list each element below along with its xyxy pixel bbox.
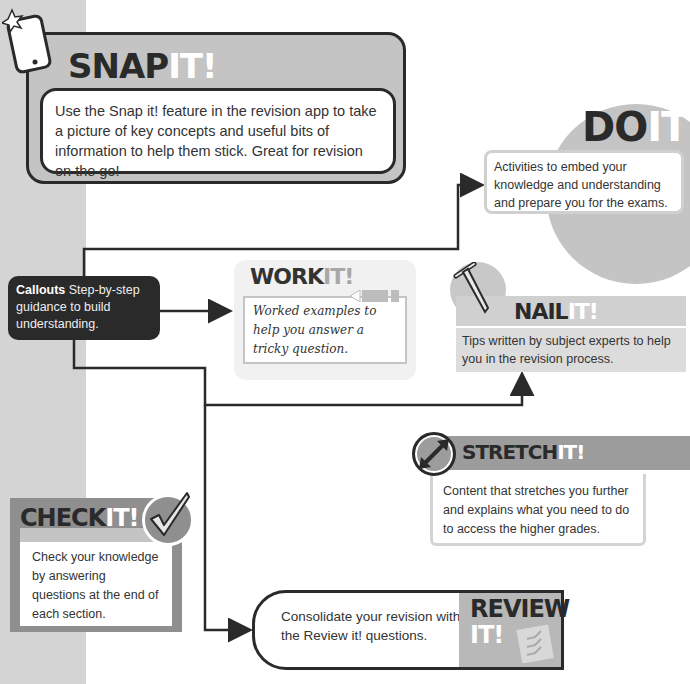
check-it-title-it: IT!	[105, 504, 138, 532]
do-it-title-it: IT!	[647, 104, 690, 150]
nail-it-body: Tips written by subject experts to help …	[456, 328, 686, 372]
check-it-body: Check your knowledge by answering questi…	[20, 542, 172, 626]
review-it-body: Consolidate your revision with the Revie…	[281, 607, 461, 645]
pencil-icon	[350, 290, 402, 302]
nail-it-title-main: NAIL	[514, 299, 568, 324]
check-it-title-main: CHECK	[20, 504, 105, 532]
checkmark-icon	[145, 491, 191, 537]
do-it-title-main: DO	[582, 104, 647, 150]
nail-it-title-it: IT!	[568, 299, 598, 324]
nail-icon	[452, 262, 502, 322]
review-it-title-it: IT!	[470, 622, 569, 648]
check-it-circle	[142, 494, 194, 546]
stretch-it-body: Content that stretches you further and e…	[430, 474, 646, 546]
stretch-it-title-main: STRETCH	[462, 440, 557, 464]
callouts-label: Callouts	[16, 283, 65, 297]
work-it-title-main: WORK	[250, 264, 323, 289]
do-it-body: Activities to embed your knowledge and u…	[484, 150, 684, 214]
snap-it-title-it: IT!	[168, 46, 216, 86]
stretch-it-title: STRETCHIT!	[462, 440, 584, 464]
do-it-title: DOIT!	[582, 104, 690, 150]
work-it-title-it: IT!	[323, 264, 353, 289]
phone-flash-icon	[2, 8, 54, 74]
work-it-body: Worked examples to help you answer a tri…	[243, 296, 407, 364]
stretch-it-circle	[412, 432, 456, 476]
snap-it-body: Use the Snap it! feature in the revision…	[40, 88, 396, 174]
work-it-title: WORKIT!	[250, 264, 353, 289]
snap-it-title: SNAPIT!	[68, 46, 217, 86]
stretch-arrows-icon	[415, 435, 453, 473]
check-it-title: CHECKIT!	[20, 504, 139, 532]
callouts-box: Callouts Step-by-step guidance to build …	[8, 276, 160, 340]
review-it-title-main: REVIEW	[470, 595, 569, 623]
nail-it-title: NAILIT!	[514, 299, 598, 324]
stretch-it-title-it: IT!	[557, 440, 584, 464]
review-it-title: REVIEWIT!	[470, 596, 569, 648]
snap-it-title-main: SNAP	[68, 46, 168, 86]
